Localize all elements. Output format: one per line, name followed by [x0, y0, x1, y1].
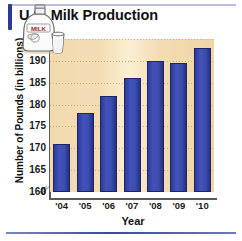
gridline: [50, 61, 214, 62]
x-axis-title: Year: [49, 215, 217, 227]
bar: [53, 144, 70, 192]
milk-jug-icon: MILK: [14, 3, 72, 55]
x-axis-tick-label: '10: [187, 200, 217, 211]
bar: [124, 78, 141, 192]
chart-card: U.S. Milk Production 1601651701751801851…: [0, 0, 242, 241]
bottom-rule: [6, 232, 236, 234]
gridline: [50, 39, 214, 40]
bar: [77, 113, 94, 192]
y-axis-zero-label: 0: [2, 186, 46, 197]
plot-area: [50, 39, 214, 192]
bar: [100, 96, 117, 192]
bar: [147, 61, 164, 192]
y-axis-title: Number of Pounds (in billions): [14, 36, 25, 186]
bar: [194, 48, 211, 192]
svg-text:MILK: MILK: [31, 25, 47, 32]
bar: [170, 63, 187, 192]
